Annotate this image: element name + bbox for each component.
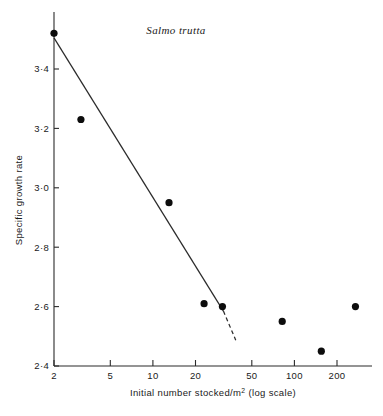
x-tick-label: 200	[329, 370, 346, 381]
chart-title: Salmo trutta	[146, 24, 206, 36]
x-tick-label: 2	[51, 370, 57, 381]
x-axis-title: Initial number stocked/m2 (log scale)	[130, 387, 296, 399]
y-tick-label: 2·8	[34, 242, 49, 253]
data-point-marker	[279, 318, 286, 325]
scatter-plot: Salmo trutta 2·42·62·83·03·23·4 25102050…	[0, 0, 383, 416]
data-point-marker	[318, 348, 325, 355]
data-point-marker	[200, 300, 207, 307]
x-tick-label: 20	[190, 370, 201, 381]
data-point-marker	[219, 303, 226, 310]
plot-background	[0, 0, 383, 416]
y-axis-title: Specific growth rate	[13, 155, 24, 245]
data-point-marker	[165, 199, 172, 206]
y-tick-label: 2·4	[34, 360, 49, 371]
x-tick-label: 100	[286, 370, 303, 381]
data-point-marker	[77, 116, 84, 123]
data-point-marker	[352, 303, 359, 310]
y-tick-label: 3·2	[34, 123, 49, 134]
y-tick-label: 2·6	[34, 301, 49, 312]
figure-container: Salmo trutta 2·42·62·83·03·23·4 25102050…	[0, 0, 383, 416]
y-tick-label: 3·4	[34, 63, 49, 74]
y-tick-label: 3·0	[34, 182, 49, 193]
data-point-marker	[50, 30, 57, 37]
x-tick-label: 50	[246, 370, 257, 381]
x-tick-label: 10	[147, 370, 158, 381]
x-tick-label: 5	[108, 370, 114, 381]
